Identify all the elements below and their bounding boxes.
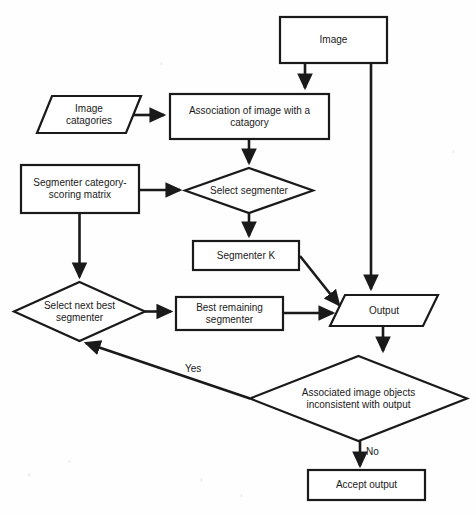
node-scoring-matrix-shape <box>21 165 139 213</box>
node-image-shape <box>280 17 387 63</box>
node-association-shape <box>170 94 329 139</box>
flowchart-svg <box>0 0 476 515</box>
edge-label-no: No <box>366 446 379 457</box>
node-output-shape <box>330 295 438 326</box>
node-accept-output-shape <box>308 470 425 500</box>
node-segmenter-k-shape <box>193 241 299 270</box>
node-image-categories-shape <box>37 96 141 133</box>
scan-speck <box>200 478 203 482</box>
edge-label-yes: Yes <box>185 363 201 374</box>
node-select-segmenter-shape <box>185 168 313 213</box>
node-select-next-best-shape <box>14 282 145 341</box>
scan-speck <box>27 473 31 477</box>
scan-speck <box>452 150 455 153</box>
scan-speck <box>240 494 243 497</box>
scan-speck <box>68 460 71 463</box>
flowchart-canvas: Image Image catagories Association of im… <box>0 0 476 515</box>
node-best-remaining-shape <box>176 297 283 330</box>
scan-speck <box>160 62 163 65</box>
node-inconsistent-shape <box>250 356 467 441</box>
edge-inconsistent-to-select-next-best-yes <box>86 343 250 399</box>
edge-segmenter-k-to-output <box>300 256 339 305</box>
